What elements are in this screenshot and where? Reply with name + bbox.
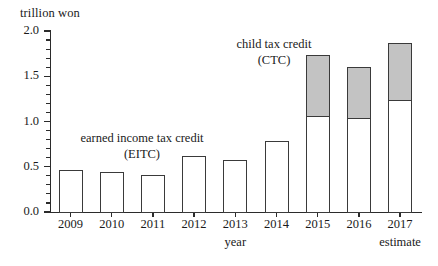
bar-segment-ctc	[347, 67, 371, 119]
bar-segment-eitc	[141, 175, 165, 213]
y-tick-label: 0.0	[5, 204, 39, 219]
y-tick-minor	[46, 139, 51, 140]
bar-segment-eitc	[388, 100, 412, 213]
bar-segment-ctc	[388, 43, 412, 101]
y-tick-major	[44, 76, 51, 77]
y-tick-major	[44, 211, 51, 212]
y-tick-label: 0.5	[5, 159, 39, 174]
eitc-annotation: earned income tax credit (EITC)	[56, 130, 228, 162]
y-tick-minor	[46, 184, 51, 185]
y-tick-label: 1.5	[5, 68, 39, 83]
y-tick-minor	[46, 49, 51, 50]
bar-segment-eitc	[59, 170, 83, 213]
x-tick-label: 2017	[377, 217, 423, 232]
y-tick-major	[44, 30, 51, 31]
bar-segment-eitc	[223, 160, 247, 213]
ctc-annotation: child tax credit (CTC)	[214, 36, 334, 68]
x-tick-label: 2015	[295, 217, 341, 232]
y-tick-minor	[46, 193, 51, 194]
y-tick-minor	[46, 130, 51, 131]
y-tick-major	[44, 121, 51, 122]
y-tick-minor	[46, 103, 51, 104]
x-tick-label: 2011	[130, 217, 176, 232]
bar-chart: trillion won 0.00.51.01.52.0 20092010201…	[0, 0, 438, 266]
y-tick-minor	[46, 148, 51, 149]
y-tick-minor	[46, 94, 51, 95]
x-tick-label: 2016	[336, 217, 382, 232]
y-tick-major	[44, 166, 51, 167]
y-tick-minor	[46, 58, 51, 59]
x-tick-label: 2010	[89, 217, 135, 232]
x-axis-title: year	[205, 235, 265, 250]
y-tick-minor	[46, 157, 51, 158]
bar-segment-eitc	[306, 116, 330, 213]
x-tick-label: 2013	[212, 217, 258, 232]
y-tick-label: 2.0	[5, 23, 39, 38]
x-tick-label: 2014	[254, 217, 300, 232]
y-tick-minor	[46, 112, 51, 113]
y-axis-unit-label: trillion won	[20, 6, 80, 21]
y-tick-minor	[46, 202, 51, 203]
bar-segment-eitc	[182, 156, 206, 213]
x-tick-sublabel: estimate	[370, 235, 430, 250]
y-tick-minor	[46, 175, 51, 176]
y-tick-minor	[46, 39, 51, 40]
y-tick-minor	[46, 85, 51, 86]
bar-segment-eitc	[265, 141, 289, 213]
x-tick-label: 2012	[171, 217, 217, 232]
bar-segment-eitc	[100, 172, 124, 213]
x-tick-label: 2009	[48, 217, 94, 232]
y-tick-label: 1.0	[5, 114, 39, 129]
y-tick-minor	[46, 67, 51, 68]
bar-segment-eitc	[347, 118, 371, 213]
